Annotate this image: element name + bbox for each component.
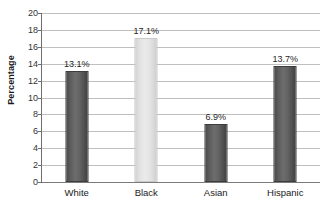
y-axis-tick-label: 2 bbox=[16, 161, 38, 170]
y-axis-tickmark bbox=[38, 81, 42, 82]
y-axis-tickmark bbox=[38, 148, 42, 149]
category-label-hispanic: Hispanic bbox=[251, 188, 321, 198]
y-axis-tickmark bbox=[38, 131, 42, 132]
y-axis-tick-label: 18 bbox=[16, 25, 38, 34]
bar-slot: 13.1% bbox=[42, 13, 112, 183]
y-axis-tick-label: 12 bbox=[16, 76, 38, 85]
bar-value-label: 17.1% bbox=[133, 27, 159, 36]
bar-slot: 17.1% bbox=[112, 13, 182, 183]
bar-hispanic[interactable] bbox=[274, 66, 297, 182]
category-label-white: White bbox=[42, 188, 112, 198]
y-axis-tick-label: 6 bbox=[16, 127, 38, 136]
y-axis-tickmark bbox=[38, 47, 42, 48]
bar-slot: 6.9% bbox=[181, 13, 251, 183]
bar-white[interactable] bbox=[65, 71, 88, 182]
y-axis-tickmark bbox=[38, 165, 42, 166]
y-axis-tick-label: 20 bbox=[16, 9, 38, 18]
bar-asian[interactable] bbox=[204, 124, 227, 182]
bar-value-label: 6.9% bbox=[205, 113, 226, 122]
y-axis-tickmark bbox=[38, 13, 42, 14]
bar-slot: 13.7% bbox=[251, 13, 321, 183]
y-axis-tick-label: 4 bbox=[16, 144, 38, 153]
y-axis-tick-label: 14 bbox=[16, 59, 38, 68]
bar-value-label: 13.7% bbox=[272, 55, 298, 64]
y-axis-tick-label: 10 bbox=[16, 93, 38, 102]
bar-black[interactable] bbox=[135, 38, 158, 182]
y-axis-tick-label: 0 bbox=[16, 178, 38, 187]
bar-chart: Percentage 20181614121086420 13.1%17.1%6… bbox=[0, 0, 324, 213]
y-axis-tick-labels: 20181614121086420 bbox=[16, 13, 38, 182]
category-label-black: Black bbox=[112, 188, 182, 198]
y-axis-tick-label: 16 bbox=[16, 42, 38, 51]
y-axis-tickmark bbox=[38, 182, 42, 183]
y-axis-tick-label: 8 bbox=[16, 110, 38, 119]
x-axis-category-labels: WhiteBlackAsianHispanic bbox=[42, 188, 320, 208]
bar-value-label: 13.1% bbox=[64, 60, 90, 69]
y-axis-tickmark bbox=[38, 98, 42, 99]
y-axis-tickmark bbox=[38, 114, 42, 115]
y-axis-title: Percentage bbox=[6, 40, 16, 120]
category-label-asian: Asian bbox=[181, 188, 251, 198]
y-axis-tickmark bbox=[38, 30, 42, 31]
bars-layer: 13.1%17.1%6.9%13.7% bbox=[42, 13, 320, 183]
y-axis-tickmark bbox=[38, 64, 42, 65]
